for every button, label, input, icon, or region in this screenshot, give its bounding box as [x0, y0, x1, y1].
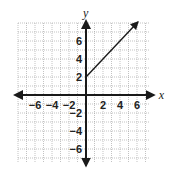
- x-tick-label: 4: [117, 99, 124, 111]
- y-tick-label: 2: [76, 71, 82, 83]
- x-tick-label: −6: [29, 99, 42, 111]
- y-axis-label: y: [82, 6, 89, 20]
- x-tick-label: −4: [46, 99, 59, 111]
- x-tick-label: 2: [100, 99, 106, 111]
- y-tick-label: −6: [69, 143, 82, 155]
- grid-lines: [18, 23, 150, 163]
- x-axis-label: x: [158, 88, 165, 102]
- axes: [15, 21, 154, 166]
- y-tick-label: 4: [76, 53, 83, 65]
- ray-series: [86, 22, 138, 77]
- y-tick-label: 6: [76, 35, 82, 47]
- x-tick-label: 6: [134, 99, 140, 111]
- graph-svg: −6−4−2246642−2−4−6 x y: [0, 0, 172, 169]
- data-series: [86, 22, 138, 77]
- coordinate-plane-chart: −6−4−2246642−2−4−6 x y: [0, 0, 172, 169]
- y-tick-label: −4: [69, 125, 82, 137]
- y-tick-label: −2: [69, 107, 82, 119]
